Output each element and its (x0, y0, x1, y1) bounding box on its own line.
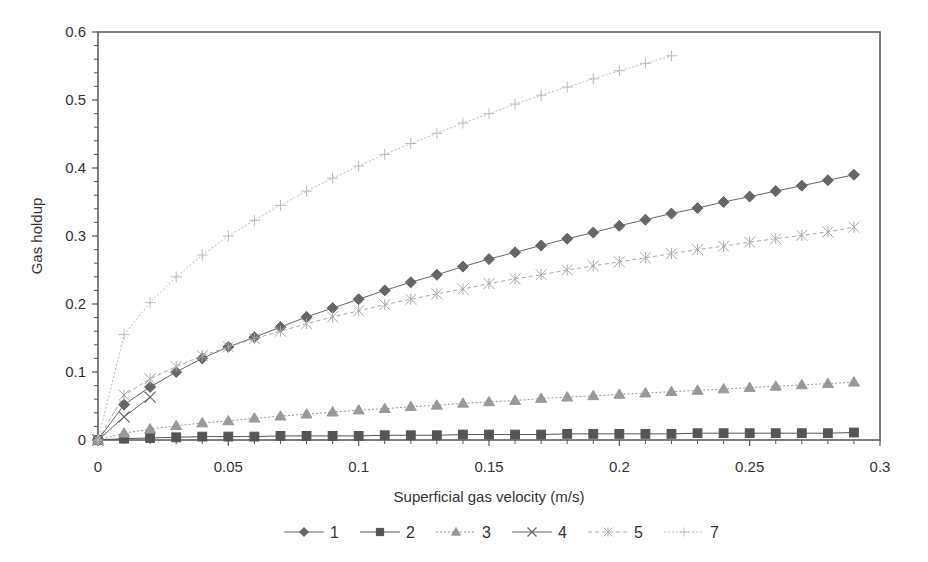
x-axis-title: Superficial gas velocity (m/s) (394, 488, 585, 505)
y-tick-label: 0.3 (65, 227, 86, 244)
x-tick-label: 0.2 (609, 458, 630, 475)
legend-item-3: 3 (436, 524, 491, 541)
series-7 (93, 50, 677, 445)
legend-label: 2 (406, 524, 415, 541)
legend-label: 3 (482, 524, 491, 541)
series-1 (93, 169, 860, 445)
y-tick-label: 0.5 (65, 91, 86, 108)
legend-item-5: 5 (588, 524, 643, 541)
legend-label: 7 (710, 524, 719, 541)
x-tick-label: 0 (94, 458, 102, 475)
x-tick-label: 0.3 (870, 458, 891, 475)
x-tick-label: 0.05 (214, 458, 243, 475)
series-3 (93, 377, 860, 444)
chart: 00.10.20.30.40.50.6 00.050.10.150.20.250… (0, 0, 928, 562)
y-tick-label: 0 (78, 431, 86, 448)
legend-label: 4 (558, 524, 567, 541)
x-axis: 00.050.10.150.20.250.3 (94, 440, 891, 475)
x-tick-label: 0.25 (735, 458, 764, 475)
legend: 123457 (284, 524, 719, 541)
legend-item-7: 7 (664, 524, 719, 541)
plot-border (98, 32, 880, 440)
y-tick-label: 0.6 (65, 23, 86, 40)
y-tick-label: 0.4 (65, 159, 86, 176)
y-tick-label: 0.2 (65, 295, 86, 312)
y-axis-title: Gas holdup (28, 198, 45, 275)
legend-item-4: 4 (512, 524, 567, 541)
legend-item-1: 1 (284, 524, 339, 541)
x-tick-label: 0.15 (474, 458, 503, 475)
series-2 (94, 428, 859, 444)
plot-area (98, 32, 880, 440)
y-axis: 00.10.20.30.40.50.6 (65, 23, 98, 448)
legend-item-2: 2 (360, 524, 415, 541)
x-tick-label: 0.1 (348, 458, 369, 475)
legend-label: 5 (634, 524, 643, 541)
y-tick-label: 0.1 (65, 363, 86, 380)
legend-label: 1 (330, 524, 339, 541)
series-layer (93, 50, 860, 445)
